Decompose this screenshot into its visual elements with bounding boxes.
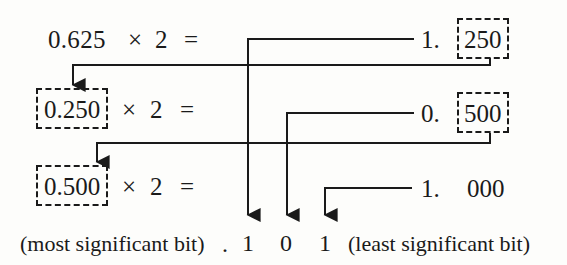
result-bit-1: 0 [280, 231, 292, 255]
row-3-multiplier: 2 [150, 174, 163, 199]
lsb-label: (least significant bit) [348, 233, 530, 255]
msb-label: (most significant bit) [20, 233, 205, 255]
row-2-multiplier: 2 [150, 97, 163, 122]
row-1-multiply-symbol: × [128, 27, 142, 52]
row-3-fraction-part: 000 [467, 176, 505, 201]
wire-row1-to-bit1 [248, 39, 414, 215]
row-2-integer-part: 0. [421, 101, 440, 126]
result-bit-2: 1 [319, 231, 331, 255]
wire-row2-to-bit2 [287, 113, 414, 215]
row-3-integer-part: 1. [421, 176, 440, 201]
binary-fraction-conversion-figure: 0.625 × 2 = 1. 250 0.250 × 2 = 0. 500 0.… [0, 0, 567, 265]
row-2-operand: 0.250 [44, 97, 100, 122]
row-1-multiplier: 2 [155, 27, 168, 52]
result-bit-0: 1 [242, 231, 254, 255]
wire-feedback-250 [73, 58, 490, 85]
wire-feedback-500 [97, 133, 490, 162]
wire-row3-to-bit3 [325, 188, 412, 215]
radix-point: . [222, 232, 228, 256]
row-1-fraction-part: 250 [464, 27, 502, 52]
row-1-equals: = [184, 27, 198, 52]
row-2-equals: = [180, 97, 194, 122]
row-3-operand: 0.500 [44, 174, 100, 199]
row-2-multiply-symbol: × [122, 97, 136, 122]
row-3-multiply-symbol: × [122, 174, 136, 199]
row-2-fraction-part: 500 [464, 101, 502, 126]
row-1-integer-part: 1. [421, 27, 440, 52]
row-1-operand: 0.625 [48, 27, 106, 52]
row-3-equals: = [180, 174, 194, 199]
